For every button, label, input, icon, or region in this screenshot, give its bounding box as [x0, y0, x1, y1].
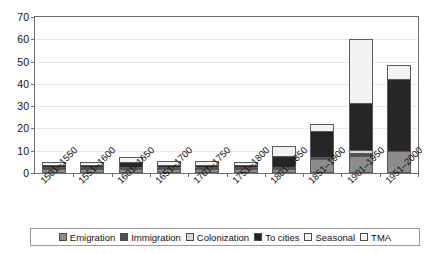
x-tick-mark [341, 173, 342, 177]
legend-label: Seasonal [315, 232, 355, 243]
x-tick-mark [227, 173, 228, 177]
y-tick-label: 60 [17, 33, 29, 45]
x-tick-mark [418, 173, 419, 177]
stacked-bar-chart: 010203040506070 1501–15501551–16001601–1… [0, 0, 430, 254]
y-tick-label: 30 [17, 100, 29, 112]
y-tick-label: 50 [17, 56, 29, 68]
legend-item: Seasonal [304, 232, 355, 243]
legend-label: Immigration [131, 232, 181, 243]
legend-item: TMA [360, 232, 391, 243]
bar-segment [387, 79, 411, 150]
legend-swatch-tma [360, 233, 368, 241]
y-tick-label: 20 [17, 122, 29, 134]
x-tick-mark [380, 173, 381, 177]
x-tick-mark [73, 173, 74, 177]
legend-label: TMA [371, 232, 391, 243]
legend-item: Emigration [59, 232, 115, 243]
legend-label: To cities [265, 232, 299, 243]
legend-swatch-emigration [59, 233, 67, 241]
legend-item: Immigration [120, 232, 181, 243]
legend-label: Colonization [197, 232, 249, 243]
y-tick-label: 70 [17, 11, 29, 23]
legend-swatch-to-cities [254, 233, 262, 241]
legend-item: Colonization [186, 232, 249, 243]
legend-label: Emigration [70, 232, 115, 243]
legend-swatch-seasonal [304, 233, 312, 241]
x-tick-mark [188, 173, 189, 177]
x-tick-mark [150, 173, 151, 177]
y-tick-mark [31, 173, 35, 174]
chart-legend: EmigrationImmigrationColonizationTo citi… [30, 228, 420, 246]
legend-swatch-immigration [120, 233, 128, 241]
x-tick-mark [303, 173, 304, 177]
bar-segment [387, 65, 411, 79]
legend-item: To cities [254, 232, 299, 243]
bar-segment [349, 103, 373, 150]
x-tick-mark [112, 173, 113, 177]
legend-swatch-colonization [186, 233, 194, 241]
y-tick-label: 40 [17, 78, 29, 90]
bar-segment [310, 124, 334, 131]
x-tick-mark [265, 173, 266, 177]
y-tick-label: 0 [23, 167, 29, 179]
bar-segment [349, 39, 373, 103]
y-tick-label: 10 [17, 145, 29, 157]
